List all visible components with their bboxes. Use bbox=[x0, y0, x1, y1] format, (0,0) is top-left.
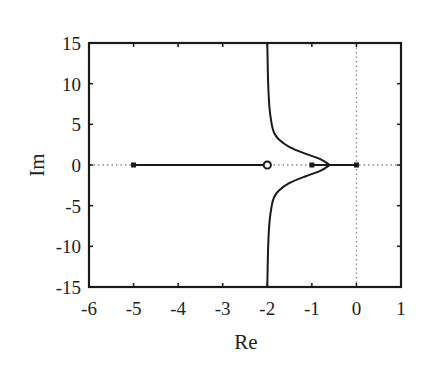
y-tick-label: 0 bbox=[72, 155, 82, 176]
pole-marker bbox=[354, 163, 359, 168]
zero-marker bbox=[264, 161, 271, 168]
upper-branch-line bbox=[267, 43, 329, 165]
y-tick-label: -10 bbox=[56, 236, 81, 257]
x-tick-label: 0 bbox=[352, 298, 362, 319]
pole-marker bbox=[309, 163, 314, 168]
y-tick-label: 10 bbox=[62, 74, 81, 95]
pole-marker bbox=[131, 163, 136, 168]
y-tick-label: -15 bbox=[56, 277, 81, 298]
x-tick-label: -5 bbox=[126, 298, 142, 319]
x-tick-label: 1 bbox=[396, 298, 406, 319]
x-tick-label: -3 bbox=[215, 298, 231, 319]
x-axis-label: Re bbox=[234, 330, 257, 354]
y-tick-label: 15 bbox=[62, 33, 81, 54]
y-tick-label: -5 bbox=[65, 196, 81, 217]
x-tick-label: -6 bbox=[81, 298, 97, 319]
x-tick-label: -1 bbox=[304, 298, 320, 319]
y-tick-label: 5 bbox=[72, 114, 82, 135]
locus-branches bbox=[134, 43, 357, 287]
y-tick-labels: 151050-5-10-15 bbox=[56, 33, 81, 298]
root-locus-chart: -6-5-4-3-2-101 151050-5-10-15 Re Im bbox=[0, 0, 437, 377]
x-tick-label: -4 bbox=[170, 298, 186, 319]
lower-branch-line bbox=[267, 165, 329, 287]
x-tick-labels: -6-5-4-3-2-101 bbox=[81, 298, 406, 319]
y-axis-label: Im bbox=[25, 153, 49, 176]
x-tick-label: -2 bbox=[259, 298, 275, 319]
